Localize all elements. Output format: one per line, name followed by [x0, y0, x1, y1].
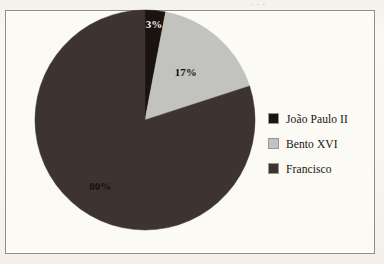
- legend-swatch-joao-paulo-ii: [268, 113, 279, 124]
- plot-area: 3%17%80% João Paulo IIBento XVIFrancisco: [6, 11, 376, 255]
- legend-item[interactable]: Francisco: [268, 156, 374, 181]
- legend-swatch-francisco: [268, 163, 279, 174]
- pie-data-label: 17%: [175, 66, 197, 78]
- legend-item[interactable]: João Paulo II: [268, 106, 374, 131]
- legend-item[interactable]: Bento XVI: [268, 131, 374, 156]
- pie-chart-svg: 3%17%80%: [34, 9, 256, 231]
- pie-slice-group: [35, 10, 255, 230]
- cutoff-caption-above-figure: · · ·: [250, 0, 380, 8]
- pie-chart: 3%17%80%: [34, 9, 256, 231]
- screenshot-root: · · · 3%17%80% João Paulo IIBento XVIFra…: [0, 0, 384, 264]
- legend: João Paulo IIBento XVIFrancisco: [268, 106, 374, 181]
- legend-item-label: João Paulo II: [286, 113, 348, 125]
- figure-frame: 3%17%80% João Paulo IIBento XVIFrancisco: [5, 10, 375, 254]
- pie-data-label: 3%: [146, 18, 163, 30]
- legend-swatch-bento-xvi: [268, 138, 279, 149]
- legend-item-label: Francisco: [286, 163, 332, 175]
- legend-item-label: Bento XVI: [286, 138, 338, 150]
- pie-data-label: 80%: [89, 180, 111, 192]
